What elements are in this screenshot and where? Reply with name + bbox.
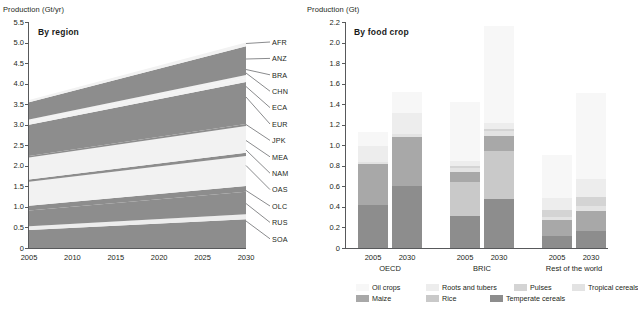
right-group-label-bric: BRIC (437, 264, 527, 273)
legend-swatch-oil-crops (356, 284, 369, 291)
bar-segment-oil-crops (484, 26, 514, 123)
right-y-tick-1.6: 1.6 (316, 79, 340, 88)
left-region-label-OAS: OAS (272, 185, 288, 194)
legend-swatch-maize (356, 295, 369, 302)
bar-segment-tropical-cereals (484, 131, 514, 136)
right-y-tick-0.8: 0.8 (316, 161, 340, 170)
right-group-label-oecd: OECD (345, 264, 435, 273)
left-x-tick-2025: 2025 (190, 253, 216, 262)
bar-segment-maize (450, 172, 480, 182)
legend-swatch-tropical-cereals (572, 284, 585, 291)
left-leader-RUS (246, 204, 270, 223)
legend-swatch-rice (426, 295, 439, 302)
left-leader-AFR (246, 42, 270, 44)
right-x-tick-4-2005: 2005 (543, 253, 571, 262)
bar-segment-tropical-cereals (450, 168, 480, 172)
bar-segment-temperate-cereals (576, 231, 606, 248)
legend-label-rice: Rice (442, 294, 456, 303)
bar-segment-maize (576, 211, 606, 231)
bar-segment-maize (542, 220, 572, 235)
legend-label-temperate-cereals: Temperate cereals (506, 294, 565, 303)
left-leader-ECA (246, 87, 270, 108)
legend-label-tropical-cereals: Tropical cereals (588, 283, 638, 292)
legend-row-1: Oil cropsRoots and tubersPulsesTropical … (340, 283, 612, 292)
left-region-label-RUS: RUS (272, 218, 288, 227)
left-stacked-bands (29, 22, 246, 248)
left-region-label-JPK: JPK (272, 136, 286, 145)
bar-segment-oil-crops (392, 92, 422, 114)
left-leader-MEA (246, 141, 270, 157)
left-x-tick-2030: 2030 (233, 253, 259, 262)
right-bar-rest-of-the-world-2030 (576, 22, 606, 248)
bar-segment-tropical-cereals (358, 162, 388, 164)
right-x-tick-0-2005: 2005 (359, 253, 387, 262)
right-y-tick-0.6: 0.6 (316, 182, 340, 191)
bar-segment-oil-crops (542, 155, 572, 198)
bar-segment-roots-and-tubers (542, 198, 572, 210)
legend-label-maize: Maize (372, 294, 391, 303)
bar-segment-roots-and-tubers (392, 113, 422, 134)
left-leader-EUR (246, 97, 270, 124)
left-region-label-AFR: AFR (272, 38, 287, 47)
right-y-tick-1.4: 1.4 (316, 100, 340, 109)
right-y-tick-0: 0 (316, 244, 340, 253)
bar-segment-roots-and-tubers (576, 179, 606, 196)
left-y-tick-3.0: 3.0 (2, 120, 24, 129)
left-region-label-NAM: NAM (272, 169, 288, 178)
bar-segment-temperate-cereals (392, 186, 422, 248)
left-plot-area (29, 22, 246, 248)
right-y-tick-1.8: 1.8 (316, 59, 340, 68)
right-bar-oecd-2005 (358, 22, 388, 248)
left-y-tick-3.5: 3.5 (2, 100, 24, 109)
bar-segment-roots-and-tubers (450, 161, 480, 166)
left-y-tick-4.0: 4.0 (2, 79, 24, 88)
left-y-tick-0.5: 0.5 (2, 223, 24, 232)
right-bar-bric-2005 (450, 22, 480, 248)
bar-segment-pulses (450, 166, 480, 168)
bar-segment-oil-crops (450, 102, 480, 161)
bar-segment-oil-crops (576, 93, 606, 179)
left-region-label-OLC: OLC (272, 202, 287, 211)
bar-segment-tropical-cereals (542, 217, 572, 220)
bar-segment-oil-crops (358, 132, 388, 146)
right-bar-group (346, 22, 608, 248)
bar-segment-rice (484, 151, 514, 198)
left-y-tick-4.5: 4.5 (2, 59, 24, 68)
right-y-tick-1.0: 1.0 (316, 141, 340, 150)
right-y-tick-1.2: 1.2 (316, 120, 340, 129)
left-label-leader-lines (240, 30, 272, 250)
legend-label-roots-and-tubers: Roots and tubers (442, 283, 497, 292)
bar-segment-maize (392, 137, 422, 186)
bar-segment-roots-and-tubers (358, 146, 388, 161)
right-y-tick-0.2: 0.2 (316, 223, 340, 232)
legend-row-2: MaizeRiceTemperate cereals (340, 294, 612, 303)
left-region-label-SOA: SOA (272, 235, 288, 244)
left-y-tick-2.5: 2.5 (2, 141, 24, 150)
legend-swatch-roots-and-tubers (426, 284, 439, 291)
bar-segment-tropical-cereals (392, 134, 422, 137)
left-leader-NAM (246, 150, 270, 173)
left-x-tick-2010: 2010 (59, 253, 85, 262)
bar-segment-pulses (542, 210, 572, 217)
left-y-tick-1.5: 1.5 (2, 182, 24, 191)
right-bar-oecd-2030 (392, 22, 422, 248)
left-y-tick-5.0: 5.0 (2, 38, 24, 47)
left-x-axis-line (28, 248, 246, 249)
right-x-axis-line (345, 248, 608, 249)
left-region-label-EUR: EUR (272, 120, 288, 129)
bar-segment-maize (484, 136, 514, 151)
left-leader-OLC (246, 191, 270, 207)
left-region-label-BRA: BRA (272, 71, 287, 80)
legend-swatch-pulses (514, 284, 527, 291)
right-group-label-rest-of-the-world: Rest of the world (529, 264, 619, 273)
bar-segment-temperate-cereals (484, 199, 514, 248)
bar-segment-temperate-cereals (450, 216, 480, 248)
left-leader-BRA (246, 70, 270, 75)
right-y-tick-2.2: 2.2 (316, 18, 340, 27)
right-panel-title: By food crop (354, 27, 409, 37)
left-x-tick-2020: 2020 (146, 253, 172, 262)
left-leader-OAS (246, 166, 270, 190)
left-region-label-MEA: MEA (272, 153, 288, 162)
left-x-tick-2005: 2005 (16, 253, 42, 262)
bar-segment-pulses (576, 197, 606, 206)
